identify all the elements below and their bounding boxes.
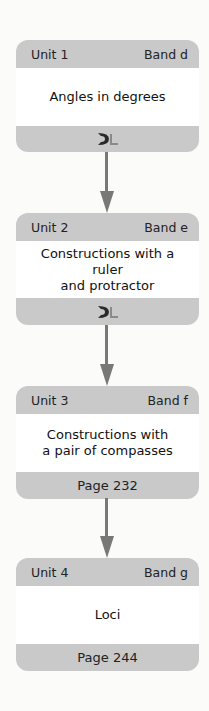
unit-label: Unit 2 <box>31 220 68 235</box>
unit-title: Constructions with a pair of compasses <box>16 414 199 472</box>
band-label: Band d <box>144 47 188 62</box>
unit-title: Loci <box>16 586 199 644</box>
dl-logo-icon <box>97 132 119 146</box>
unit-footer <box>16 126 199 152</box>
unit-header: Unit 3 Band f <box>16 386 199 414</box>
unit-header: Unit 2 Band e <box>16 213 199 241</box>
unit-title: Constructions with a ruler and protracto… <box>16 241 199 298</box>
flow-arrow <box>100 325 114 386</box>
page-reference: Page 244 <box>16 644 199 671</box>
unit-title: Angles in degrees <box>16 68 199 126</box>
unit-card-1: Unit 1 Band d Angles in degrees <box>16 40 199 152</box>
unit-card-3: Unit 3 Band f Constructions with a pair … <box>16 386 199 499</box>
unit-header: Unit 4 Band g <box>16 558 199 586</box>
unit-card-4: Unit 4 Band g Loci Page 244 <box>16 558 199 671</box>
flow-arrow <box>100 498 114 558</box>
unit-label: Unit 1 <box>31 47 68 62</box>
unit-label: Unit 3 <box>31 393 68 408</box>
unit-footer <box>16 298 199 325</box>
flow-arrow <box>100 152 114 213</box>
band-label: Band g <box>144 565 188 580</box>
unit-card-2: Unit 2 Band e Constructions with a ruler… <box>16 213 199 325</box>
page-reference: Page 232 <box>16 472 199 499</box>
unit-label: Unit 4 <box>31 565 68 580</box>
dl-logo-icon <box>97 305 119 319</box>
unit-header: Unit 1 Band d <box>16 40 199 68</box>
band-label: Band f <box>148 393 188 408</box>
band-label: Band e <box>144 220 188 235</box>
